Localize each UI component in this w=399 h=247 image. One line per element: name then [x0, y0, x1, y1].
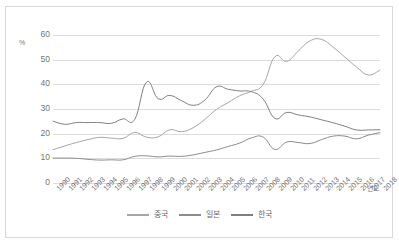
- legend-line-swatch: [127, 214, 149, 215]
- legend-line-swatch: [231, 214, 253, 215]
- plot-area: [53, 35, 380, 183]
- series-lines: [53, 35, 380, 183]
- legend-item-한국[interactable]: 한국: [231, 211, 272, 219]
- series-line-중국: [53, 39, 380, 150]
- legend-label: 한국: [258, 211, 272, 219]
- y-axis-tick-label: 20: [28, 129, 50, 138]
- y-axis-tick-label: 50: [28, 55, 50, 64]
- series-line-한국: [53, 81, 380, 130]
- legend-label: 중국: [154, 211, 168, 219]
- chart-legend: 중국일본한국: [6, 211, 392, 219]
- y-axis-tick-labels: 0102030405060: [24, 35, 50, 183]
- x-axis-title: 연도: [367, 183, 379, 193]
- x-axis-tick-labels: 1990199119921993199419951996199719981999…: [53, 187, 380, 227]
- series-line-일본: [53, 133, 380, 160]
- chart-frame: % 0102030405060 199019911992199319941995…: [5, 6, 393, 238]
- y-axis-tick-label: 10: [28, 153, 50, 162]
- legend-line-swatch: [179, 214, 201, 215]
- y-axis-tick-label: 0: [28, 178, 50, 187]
- legend-label: 일본: [206, 211, 220, 219]
- legend-item-일본[interactable]: 일본: [179, 211, 220, 219]
- y-axis-tick-label: 30: [28, 104, 50, 113]
- y-axis-tick-label: 60: [28, 30, 50, 39]
- y-axis-tick-label: 40: [28, 79, 50, 88]
- legend-item-중국[interactable]: 중국: [127, 211, 168, 219]
